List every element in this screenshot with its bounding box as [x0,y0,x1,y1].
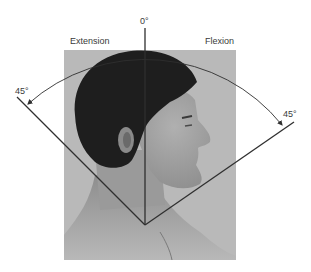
figure-graphic [0,0,311,272]
flexion-label: Flexion [205,37,234,46]
extension-label: Extension [70,37,110,46]
flexion-angle-label: 45° [283,110,297,119]
profile-photo [64,50,236,260]
extension-angle-label: 45° [15,87,29,96]
zero-degree-label: 0° [140,17,149,26]
range-of-motion-figure: 0° Extension Flexion 45° 45° [0,0,311,272]
